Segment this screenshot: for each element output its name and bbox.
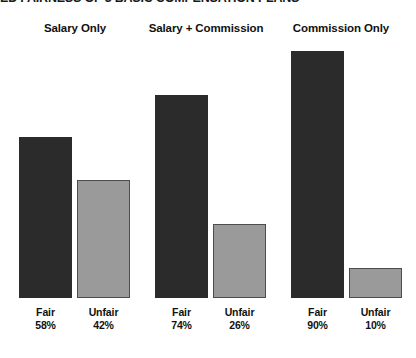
- bar-caption-name: Unfair: [77, 306, 130, 319]
- bar-caption-name: Fair: [291, 306, 344, 319]
- bar-caption-name: Fair: [155, 306, 208, 319]
- bar-chart-plot-area: Salary Only Fair 58% Unfair 42% Salary +…: [0, 0, 416, 358]
- bar-commission-only-unfair: [349, 268, 402, 298]
- bar-caption-salary-plus-commission-unfair: Unfair 26%: [213, 306, 266, 332]
- bar-caption-name: Fair: [19, 306, 72, 319]
- bar-caption-name: Unfair: [349, 306, 402, 319]
- bar-caption-value: 58%: [19, 319, 72, 332]
- bar-caption-commission-only-unfair: Unfair 10%: [349, 306, 402, 332]
- bar-caption-value: 74%: [155, 319, 208, 332]
- group-label-salary-plus-commission: Salary + Commission: [131, 22, 281, 34]
- bar-caption-value: 42%: [77, 319, 130, 332]
- bar-salary-only-fair: [19, 137, 72, 298]
- bar-caption-name: Unfair: [213, 306, 266, 319]
- bar-salary-plus-commission-fair: [155, 95, 208, 298]
- bar-caption-value: 26%: [213, 319, 266, 332]
- bar-commission-only-fair: [291, 51, 344, 298]
- bar-caption-salary-only-unfair: Unfair 42%: [77, 306, 130, 332]
- bar-caption-value: 90%: [291, 319, 344, 332]
- group-label-salary-only: Salary Only: [0, 22, 150, 34]
- bar-caption-value: 10%: [349, 319, 402, 332]
- bar-caption-salary-only-fair: Fair 58%: [19, 306, 72, 332]
- bar-salary-plus-commission-unfair: [213, 224, 266, 298]
- bar-caption-commission-only-fair: Fair 90%: [291, 306, 344, 332]
- bar-salary-only-unfair: [77, 180, 130, 298]
- group-label-commission-only: Commission Only: [266, 22, 416, 34]
- bar-caption-salary-plus-commission-fair: Fair 74%: [155, 306, 208, 332]
